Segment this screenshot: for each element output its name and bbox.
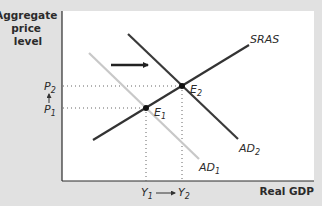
p2-label: P2	[44, 80, 56, 95]
y-axis-title: Aggregate price level	[0, 9, 61, 47]
p1-label: P1	[44, 103, 56, 118]
x-axis-title: Real GDP	[259, 185, 314, 197]
y2-label: Y2	[178, 186, 190, 201]
equilibrium-e2	[179, 83, 185, 89]
ad-as-chart: SRAS AD1 AD2 E1 E2 Aggregate price level…	[0, 0, 322, 206]
equilibrium-e1	[143, 105, 149, 111]
sras-label: SRAS	[250, 33, 279, 46]
y1-label: Y1	[141, 186, 153, 201]
